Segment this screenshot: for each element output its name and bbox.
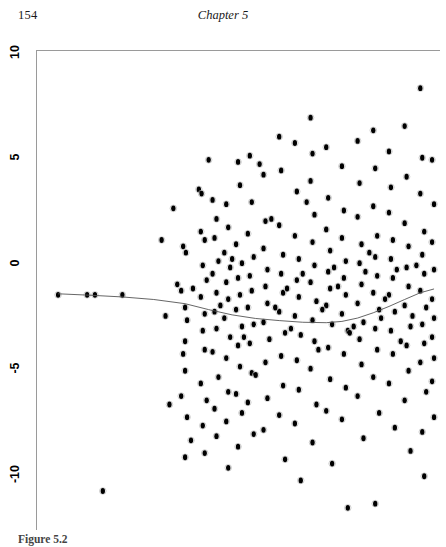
figure-caption-label: Figure 5.2 bbox=[18, 533, 68, 545]
y-tick-label: -5 bbox=[0, 361, 30, 375]
y-tick-label: 0 bbox=[0, 256, 30, 270]
book-page: 154 Chapter 5 1050-5-10 Figure 5.2 bbox=[0, 0, 446, 547]
y-tick-label-text: 10 bbox=[8, 45, 22, 59]
figure-caption: Figure 5.2 bbox=[18, 533, 318, 547]
running-head: 154 Chapter 5 bbox=[0, 8, 446, 28]
figure-scatterplot: 1050-5-10 bbox=[0, 36, 446, 536]
plot-frame bbox=[36, 50, 440, 530]
axis-left-spine bbox=[36, 50, 37, 530]
y-tick-label-text: 0 bbox=[8, 259, 22, 266]
y-tick-label-text: -5 bbox=[8, 363, 22, 374]
y-tick-label: 5 bbox=[0, 150, 30, 164]
chapter-title: Chapter 5 bbox=[0, 8, 446, 23]
y-tick-label-text: -10 bbox=[8, 465, 22, 483]
axis-top-spine bbox=[36, 50, 440, 51]
y-tick-label: 10 bbox=[0, 45, 30, 59]
y-tick-label: -10 bbox=[0, 467, 30, 481]
y-tick-label-text: 5 bbox=[8, 154, 22, 161]
